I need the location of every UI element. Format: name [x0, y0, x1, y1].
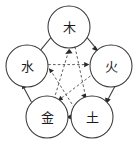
wuxing-diagram-canvas: 木 水 火 金 土	[0, 0, 138, 143]
node-fire-label: 火	[105, 59, 118, 74]
node-metal-label: 金	[41, 110, 54, 125]
node-metal[interactable]: 金	[26, 96, 68, 138]
wuxing-diagram: 木 水 火 金 土	[0, 0, 138, 143]
node-earth[interactable]: 土	[71, 96, 113, 138]
node-fire[interactable]: 火	[90, 45, 132, 87]
edge-metal-to-wood-line	[54, 52, 68, 100]
edge-metal-to-wood-arrowhead	[65, 49, 72, 54]
edge-earth-to-water-arrowhead	[49, 68, 54, 73]
node-wood[interactable]: 木	[48, 6, 90, 48]
edge-wood-to-earth	[75, 47, 87, 100]
node-water-label: 水	[21, 59, 34, 74]
node-earth-label: 土	[86, 110, 99, 125]
edge-wood-to-earth-line	[75, 47, 86, 97]
node-wood-label: 木	[63, 20, 76, 35]
edge-water-to-fire-arrowhead	[84, 62, 89, 67]
node-water[interactable]: 水	[6, 45, 48, 87]
edge-metal-to-water-line	[23, 87, 31, 102]
edge-water-to-fire	[48, 62, 89, 67]
